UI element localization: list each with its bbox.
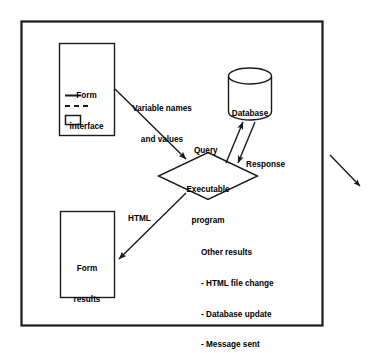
edge-external-output (330, 155, 360, 186)
other-results-item-2: - Message sent (201, 340, 316, 350)
edge-label-variable-names: Variable names and values (125, 84, 199, 166)
form-interface-label-line1: Form (59, 91, 114, 101)
form-results-label-line1: Form (60, 264, 114, 274)
executable-program-label-line1: Executable (163, 185, 253, 195)
form-interface-label-line2: interface (59, 122, 114, 132)
edge-label-variable-line1: Variable names (125, 104, 199, 114)
executable-program-label-line2: program (163, 216, 253, 226)
edge-label-response-text: Response (246, 160, 306, 170)
edge-label-query: Query (194, 126, 234, 177)
other-results-block: Other results - HTML file change - Datab… (201, 228, 316, 353)
edge-label-query-text: Query (194, 146, 234, 156)
edge-label-response: Response (246, 140, 306, 191)
form-results-label-line2: results (60, 295, 114, 305)
edge-label-html: HTML (128, 194, 168, 245)
database-cylinder-top (229, 68, 272, 84)
other-results-heading: Other results (201, 248, 316, 258)
edge-label-html-text: HTML (128, 214, 168, 224)
edge-label-variable-line2: and values (125, 135, 199, 145)
form-results-label: Form results (60, 244, 114, 326)
other-results-item-0: - HTML file change (201, 279, 316, 289)
form-interface-label: Form interface (59, 71, 114, 153)
other-results-item-1: - Database update (201, 310, 316, 320)
database-label-text: Database (225, 109, 275, 119)
